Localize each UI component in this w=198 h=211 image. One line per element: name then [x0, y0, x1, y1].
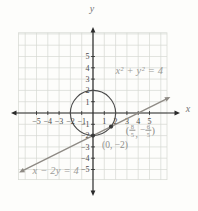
- y-tick-label: −5: [81, 165, 90, 174]
- intersection-dot: [91, 134, 95, 138]
- minus-sign: −: [140, 125, 145, 135]
- point-label-0-neg2: (0, −2): [102, 142, 128, 152]
- y-tick-label: 5: [86, 52, 90, 61]
- x-tick-label: 1: [102, 117, 106, 126]
- paren-close: ): [152, 124, 156, 135]
- y-tick-label: 4: [86, 64, 90, 73]
- y-tick-label: −1: [81, 120, 90, 129]
- fraction-x-coordinate: 85: [130, 122, 135, 139]
- x-axis-arrow-left-icon: [11, 111, 17, 116]
- x-tick-label: −5: [32, 117, 41, 126]
- y-axis-arrow-top-icon: [91, 27, 96, 33]
- circle-equation-label: x² + y² = 4: [115, 66, 163, 77]
- fraction-numerator: 6: [146, 122, 151, 131]
- paren-open: (: [126, 124, 130, 135]
- x-tick-label: −4: [44, 117, 53, 126]
- y-axis-arrow-bottom-icon: [91, 191, 96, 197]
- fraction-y-coordinate: 65: [146, 122, 151, 139]
- intersection-dot: [109, 124, 113, 128]
- y-tick-label: −3: [81, 143, 90, 152]
- fraction-denominator: 5: [146, 131, 151, 139]
- x-axis-arrow-right-icon: [175, 111, 181, 116]
- coordinate-plane: −5−4−3−2−11234554321−1−2−3−4−5: [0, 0, 198, 211]
- y-tick-label: 3: [86, 75, 90, 84]
- line-equation-label: x − 2y = 4: [32, 166, 79, 177]
- fraction-denominator: 5: [130, 131, 135, 139]
- point-label-8-5-neg6-5: (85,−65): [126, 122, 155, 139]
- x-tick-label: −3: [55, 117, 64, 126]
- y-axis-label: y: [90, 4, 94, 14]
- y-tick-label: 1: [86, 98, 90, 107]
- fraction-numerator: 8: [130, 122, 135, 131]
- y-tick-label: −4: [81, 154, 90, 163]
- graph-figure: −5−4−3−2−11234554321−1−2−3−4−5 y x x² + …: [0, 0, 198, 211]
- x-axis-label: x: [186, 104, 190, 114]
- comma: ,: [136, 128, 138, 138]
